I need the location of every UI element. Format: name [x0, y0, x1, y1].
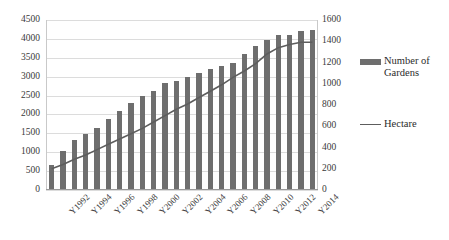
hectare-line-path: [52, 42, 313, 168]
x-axis-tick-label: Y2004: [203, 192, 227, 216]
y-right-tick-label: 1400: [322, 36, 362, 45]
legend-item-hectare: Hectare: [360, 118, 417, 130]
x-axis-tick-label: Y2014: [316, 192, 340, 216]
legend-label-hectare: Hectare: [384, 118, 417, 130]
y-right-tick-label: 200: [322, 164, 362, 173]
y-left-tick-label: 4000: [4, 34, 40, 43]
y-left-tick-label: 3000: [4, 72, 40, 81]
y-left-tick-label: 1000: [4, 147, 40, 156]
x-axis-labels: Y1992Y1994Y1996Y1998Y2000Y2002Y2004Y2006…: [46, 192, 318, 240]
plot-area: [46, 20, 318, 190]
gridline: [46, 190, 318, 191]
x-axis-tick-label: Y2010: [271, 192, 295, 216]
chart-container: 050010001500200025003000350040004500 020…: [0, 0, 449, 240]
y-left-tick-label: 2500: [4, 91, 40, 100]
axis-line-bottom: [46, 189, 318, 190]
x-axis-tick-label: Y1992: [67, 192, 91, 216]
legend-label-number-of-gardens: Number of Gardens: [384, 55, 448, 79]
x-axis-tick-label: Y2006: [226, 192, 250, 216]
x-axis-tick-label: Y1996: [112, 192, 136, 216]
x-axis-tick-label: Y2012: [294, 192, 318, 216]
y-right-tick-label: 1000: [322, 79, 362, 88]
y-left-tick-label: 3500: [4, 53, 40, 62]
y-left-tick-label: 1500: [4, 128, 40, 137]
legend-item-number-of-gardens: Number of Gardens: [360, 55, 448, 79]
y-left-tick-label: 2000: [4, 109, 40, 118]
x-axis-tick-label: Y1998: [135, 192, 159, 216]
y-right-tick-label: 400: [322, 143, 362, 152]
x-axis-tick-label: Y2008: [248, 192, 272, 216]
line-series-hectare: [46, 20, 318, 190]
y-right-tick-label: 1600: [322, 15, 362, 24]
y-right-tick-label: 0: [322, 185, 362, 194]
y-right-tick-label: 1200: [322, 58, 362, 67]
y-right-tick-label: 800: [322, 100, 362, 109]
x-axis-tick-label: Y2002: [180, 192, 204, 216]
y-left-tick-label: 500: [4, 166, 40, 175]
bar-swatch-icon: [360, 59, 381, 65]
x-axis-tick-label: Y1994: [90, 192, 114, 216]
y-left-tick-label: 4500: [4, 15, 40, 24]
line-swatch-icon: [360, 124, 381, 125]
y-right-tick-label: 600: [322, 121, 362, 130]
x-axis-tick-label: Y2000: [158, 192, 182, 216]
y-left-tick-label: 0: [4, 185, 40, 194]
